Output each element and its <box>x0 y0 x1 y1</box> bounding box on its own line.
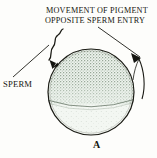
title-line-2: OPPOSITE SPERM ENTRY <box>45 17 145 25</box>
panel-letter: A <box>93 140 100 150</box>
sperm-label: SPERM <box>3 80 32 89</box>
figure-panel-a: MOVEMENT OF PIGMENT OPPOSITE SPERM ENTRY… <box>0 0 157 158</box>
sperm-leader-line <box>13 45 49 77</box>
title-line-1: MOVEMENT OF PIGMENT <box>46 7 148 15</box>
